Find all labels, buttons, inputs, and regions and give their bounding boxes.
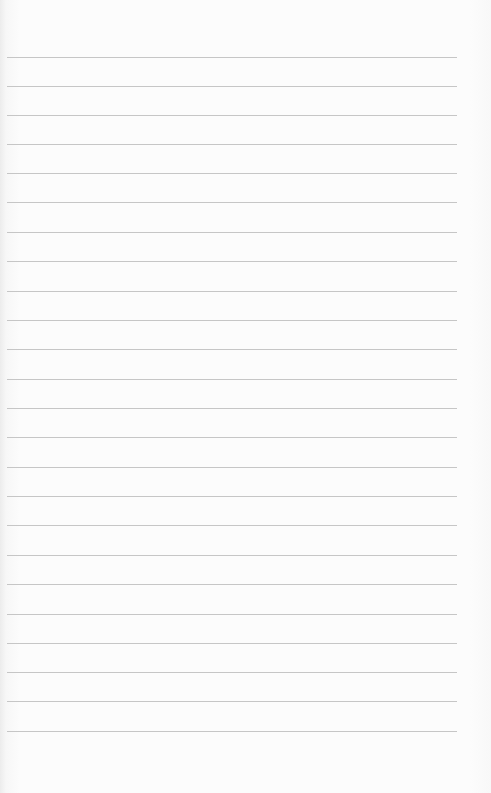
ruled-line	[7, 261, 457, 262]
ruled-line	[7, 555, 457, 556]
ruled-line	[7, 173, 457, 174]
ruled-line	[7, 232, 457, 233]
ruled-line	[7, 320, 457, 321]
ruled-line	[7, 349, 457, 350]
ruled-line	[7, 57, 457, 58]
ruled-line	[7, 202, 457, 203]
ruled-line	[7, 437, 457, 438]
ruled-line	[7, 643, 457, 644]
ruled-line	[7, 379, 457, 380]
ruled-line	[7, 467, 457, 468]
ruled-line	[7, 672, 457, 673]
ruled-line	[7, 144, 457, 145]
ruled-line	[7, 584, 457, 585]
ruled-line	[7, 525, 457, 526]
ruled-line	[7, 115, 457, 116]
ruled-line	[7, 86, 457, 87]
ruled-line	[7, 731, 457, 732]
ruled-line	[7, 496, 457, 497]
lined-paper-page	[0, 0, 491, 793]
ruled-line	[7, 408, 457, 409]
ruled-line	[7, 291, 457, 292]
ruled-line	[7, 614, 457, 615]
ruled-line	[7, 701, 457, 702]
